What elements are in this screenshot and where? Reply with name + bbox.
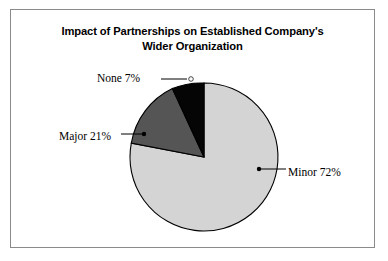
pie-label-minor: Minor 72% — [288, 166, 341, 178]
pie-label-major: Major 21% — [59, 130, 111, 142]
pie-label-none: None 7% — [97, 72, 140, 84]
leader-dot-minor — [257, 167, 261, 171]
pie-chart: None 7% Major 21% Minor 72% — [11, 10, 376, 249]
leader-dot-major — [142, 132, 146, 136]
chart-frame: Impact of Partnerships on Established Co… — [10, 9, 375, 248]
leader-dot-none — [189, 77, 194, 82]
